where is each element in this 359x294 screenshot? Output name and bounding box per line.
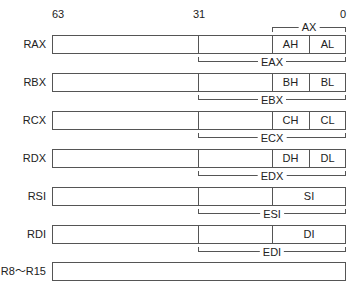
reg-rax-label: RAX xyxy=(0,35,46,54)
esi-label: ESI xyxy=(260,208,284,220)
reg-rsi-box: SI xyxy=(52,187,346,206)
reg-cl: CL xyxy=(309,112,346,129)
reg-rdi-box: DI xyxy=(52,225,346,244)
reg-bh: BH xyxy=(272,74,309,91)
reg-ch: CH xyxy=(272,112,309,129)
reg-rbx-label: RBX xyxy=(0,73,46,92)
reg-rcx-label: RCX xyxy=(0,111,46,130)
reg-di: DI xyxy=(272,226,346,243)
reg-r8-r15-label: R8～R15 xyxy=(0,262,46,281)
reg-rax-box: AH AL xyxy=(52,35,346,54)
reg-rdx-box: DH DL xyxy=(52,149,346,168)
ax-label: AX xyxy=(299,21,320,33)
reg-dl: DL xyxy=(309,150,346,167)
reg-rsi-label: RSI xyxy=(0,187,46,206)
reg-dh: DH xyxy=(272,150,309,167)
reg-r8-r15-box xyxy=(52,262,346,281)
reg-si: SI xyxy=(272,188,346,205)
reg-rcx-box: CH CL xyxy=(52,111,346,130)
reg-bl: BL xyxy=(309,74,346,91)
reg-al: AL xyxy=(309,36,346,53)
bit-0-label: 0 xyxy=(340,8,346,20)
ebx-label: EBX xyxy=(258,94,286,106)
bit-63-label: 63 xyxy=(52,8,64,20)
edx-label: EDX xyxy=(258,170,287,182)
reg-rdi-label: RDI xyxy=(0,225,46,244)
ecx-label: ECX xyxy=(258,132,287,144)
reg-rbx-box: BH BL xyxy=(52,73,346,92)
bit-31-label: 31 xyxy=(193,8,205,20)
edi-label: EDI xyxy=(260,246,284,258)
reg-rdx-label: RDX xyxy=(0,149,46,168)
eax-label: EAX xyxy=(258,56,286,68)
reg-ah: AH xyxy=(272,36,309,53)
